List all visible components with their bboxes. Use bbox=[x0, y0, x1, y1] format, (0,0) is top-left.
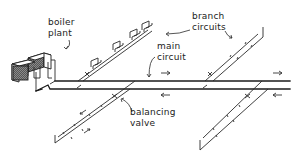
branch-circuit-lower-left bbox=[55, 81, 135, 143]
main-circuit-label-line1: main bbox=[157, 42, 186, 51]
balancing-valve-label-line1: balancing bbox=[130, 108, 176, 117]
main-circuit-pipes bbox=[36, 81, 290, 91]
balancing-valve-label: balancing valve bbox=[130, 108, 176, 128]
radiator-icons bbox=[91, 21, 152, 69]
balancing-valve-label-line2: valve bbox=[130, 119, 176, 128]
branch-circuits-label: branch circuits bbox=[192, 12, 226, 32]
boiler-plant-label: boiler plant bbox=[48, 18, 75, 38]
branch-circuit-upper-left bbox=[77, 21, 152, 88]
branch-circuits-label-line1: branch bbox=[192, 12, 226, 21]
boiler-plant-label-line1: boiler bbox=[48, 18, 75, 27]
branch-circuit-upper-right bbox=[203, 27, 263, 88]
branch-circuit-lower-right bbox=[200, 81, 268, 150]
main-circuit-label: main circuit bbox=[157, 42, 186, 62]
boiler-plant-label-line2: plant bbox=[48, 29, 75, 38]
diagram-drawing bbox=[0, 0, 298, 160]
branch-circuits-label-line2: circuits bbox=[192, 23, 226, 32]
main-circuit-label-line2: circuit bbox=[157, 53, 186, 62]
label-leaders bbox=[64, 30, 232, 112]
heating-circuit-diagram: boiler plant branch circuits main circui… bbox=[0, 0, 298, 160]
